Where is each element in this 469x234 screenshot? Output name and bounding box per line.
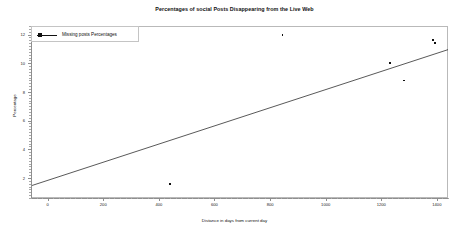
y-minor-tick [29, 141, 31, 142]
y-minor-tick [29, 58, 31, 59]
x-minor-tick [170, 198, 171, 200]
x-minor-tick [142, 198, 143, 200]
y-minor-tick [29, 112, 31, 113]
x-minor-tick [292, 198, 293, 200]
data-point [282, 34, 284, 36]
x-minor-tick [203, 198, 204, 200]
x-minor-tick [120, 198, 121, 200]
legend-label: Missing posts Percentages [62, 32, 117, 37]
y-minor-tick [29, 80, 31, 81]
x-minor-tick [42, 198, 43, 200]
x-tick [103, 198, 104, 201]
y-minor-tick [29, 75, 31, 76]
y-minor-tick [29, 115, 31, 116]
y-tick [28, 92, 31, 93]
x-minor-tick [153, 198, 154, 200]
x-minor-tick [320, 198, 321, 200]
y-minor-tick [29, 189, 31, 190]
x-minor-tick [303, 198, 304, 200]
y-minor-tick [29, 138, 31, 139]
x-tick-label: 800 [255, 202, 285, 207]
x-tick-label: 600 [199, 202, 229, 207]
x-minor-tick [81, 198, 82, 200]
y-tick [28, 149, 31, 150]
data-point [403, 80, 405, 82]
legend-box: Missing posts Percentages [31, 26, 139, 42]
y-tick-label: 10 [9, 61, 25, 66]
y-tick-label: 4 [9, 147, 25, 152]
x-tick-label: 0 [33, 202, 63, 207]
y-minor-tick [29, 152, 31, 153]
x-minor-tick [337, 198, 338, 200]
x-minor-tick [59, 198, 60, 200]
x-minor-tick [209, 198, 210, 200]
x-minor-tick [315, 198, 316, 200]
y-minor-tick [29, 89, 31, 90]
x-minor-tick [137, 198, 138, 200]
y-minor-tick [29, 78, 31, 79]
x-minor-tick [359, 198, 360, 200]
chart-title: Percentages of social Posts Disappearing… [0, 6, 469, 12]
x-minor-tick [348, 198, 349, 200]
y-tick [28, 178, 31, 179]
x-minor-tick [192, 198, 193, 200]
x-minor-tick [420, 198, 421, 200]
y-minor-tick [29, 129, 31, 130]
y-minor-tick [29, 43, 31, 44]
y-minor-tick [29, 66, 31, 67]
x-minor-tick [431, 198, 432, 200]
y-minor-tick [29, 198, 31, 199]
y-minor-tick [29, 109, 31, 110]
x-minor-tick [198, 198, 199, 200]
y-minor-tick [29, 155, 31, 156]
y-minor-tick [29, 55, 31, 56]
y-tick [28, 121, 31, 122]
y-tick-label: 2 [9, 176, 25, 181]
y-minor-tick [29, 98, 31, 99]
chart-figure: Percentages of social Posts Disappearing… [0, 0, 469, 234]
x-minor-tick [64, 198, 65, 200]
x-minor-tick [53, 198, 54, 200]
x-minor-tick [176, 198, 177, 200]
x-minor-tick [237, 198, 238, 200]
x-minor-tick [370, 198, 371, 200]
x-minor-tick [231, 198, 232, 200]
x-minor-tick [220, 198, 221, 200]
x-minor-tick [248, 198, 249, 200]
y-minor-tick [29, 161, 31, 162]
x-minor-tick [109, 198, 110, 200]
data-point [432, 39, 434, 41]
x-minor-tick [75, 198, 76, 200]
y-axis-line [31, 26, 32, 198]
x-minor-tick [164, 198, 165, 200]
x-minor-tick [226, 198, 227, 200]
x-minor-tick [353, 198, 354, 200]
x-minor-tick [131, 198, 132, 200]
legend-square-marker [38, 33, 42, 37]
x-minor-tick [92, 198, 93, 200]
x-minor-tick [287, 198, 288, 200]
y-minor-tick [29, 169, 31, 170]
x-minor-tick [126, 198, 127, 200]
x-axis-label: Distance in days from current day [0, 218, 469, 223]
x-minor-tick [426, 198, 427, 200]
x-minor-tick [31, 198, 32, 200]
x-tick [270, 198, 271, 201]
x-tick-label: 200 [88, 202, 118, 207]
x-minor-tick [114, 198, 115, 200]
x-minor-tick [309, 198, 310, 200]
y-minor-tick [29, 69, 31, 70]
y-minor-tick [29, 181, 31, 182]
y-minor-tick [29, 46, 31, 47]
data-point [169, 183, 171, 185]
y-minor-tick [29, 164, 31, 165]
x-axis-line [31, 198, 448, 199]
x-tick [214, 198, 215, 201]
x-minor-tick [365, 198, 366, 200]
y-minor-tick [29, 195, 31, 196]
y-minor-tick [29, 146, 31, 147]
x-minor-tick [276, 198, 277, 200]
data-point [389, 62, 391, 64]
y-minor-tick [29, 60, 31, 61]
x-minor-tick [442, 198, 443, 200]
